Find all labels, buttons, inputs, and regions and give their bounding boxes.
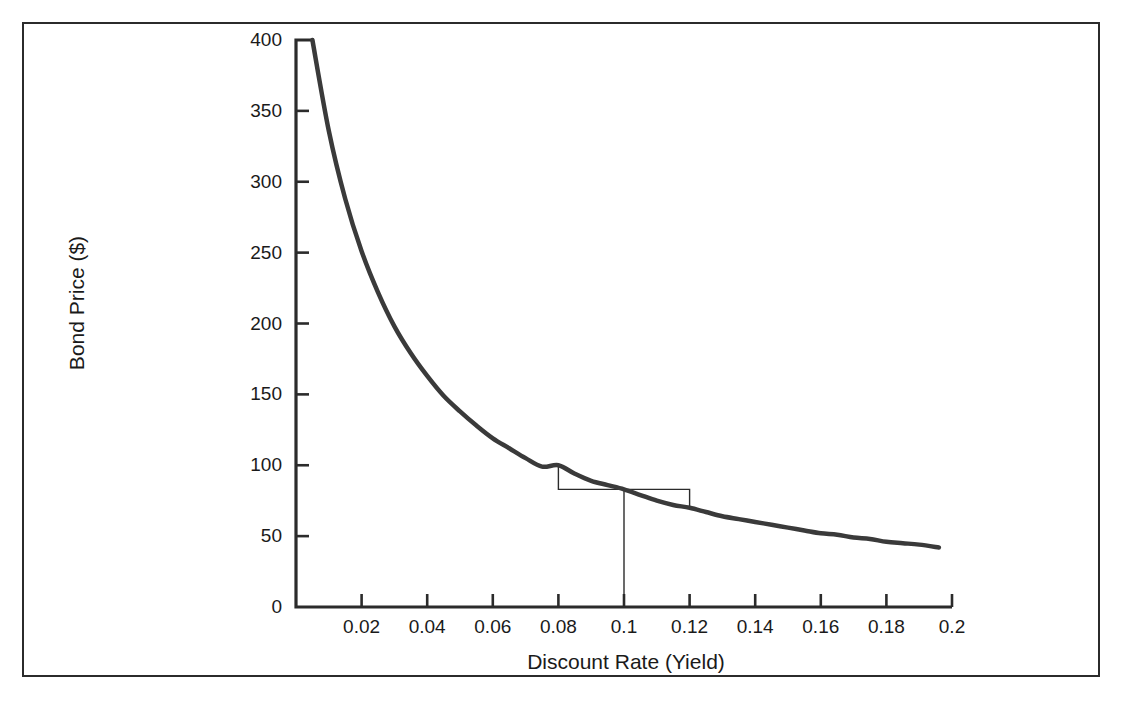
chart-title — [0, 0, 1121, 2]
chart-figure: Bond Price ($) Discount Rate (Yield) 050… — [0, 0, 1121, 707]
y-tick-label: 100 — [222, 455, 282, 474]
y-tick-label: 0 — [222, 597, 282, 616]
y-tick-label: 250 — [222, 243, 282, 262]
y-axis-label: Bond Price ($) — [62, 203, 92, 403]
y-tick-label: 350 — [222, 101, 282, 120]
x-tick-label: 0.06 — [458, 617, 528, 636]
x-tick-label: 0.08 — [523, 617, 593, 636]
x-tick-label: 0.1 — [589, 617, 659, 636]
x-tick-label: 0.02 — [327, 617, 397, 636]
y-tick-label: 300 — [222, 172, 282, 191]
y-tick-label: 50 — [222, 526, 282, 545]
x-tick-label: 0.2 — [917, 617, 987, 636]
figure-border — [22, 22, 1100, 677]
y-tick-label: 200 — [222, 314, 282, 333]
y-tick-label: 400 — [222, 30, 282, 49]
y-axis-label-text: Bond Price ($) — [65, 236, 89, 370]
x-tick-label: 0.18 — [851, 617, 921, 636]
x-tick-label: 0.12 — [655, 617, 725, 636]
x-axis-label: Discount Rate (Yield) — [296, 650, 956, 674]
x-tick-label: 0.16 — [786, 617, 856, 636]
x-tick-label: 0.04 — [392, 617, 462, 636]
y-tick-label: 150 — [222, 384, 282, 403]
x-tick-label: 0.14 — [720, 617, 790, 636]
